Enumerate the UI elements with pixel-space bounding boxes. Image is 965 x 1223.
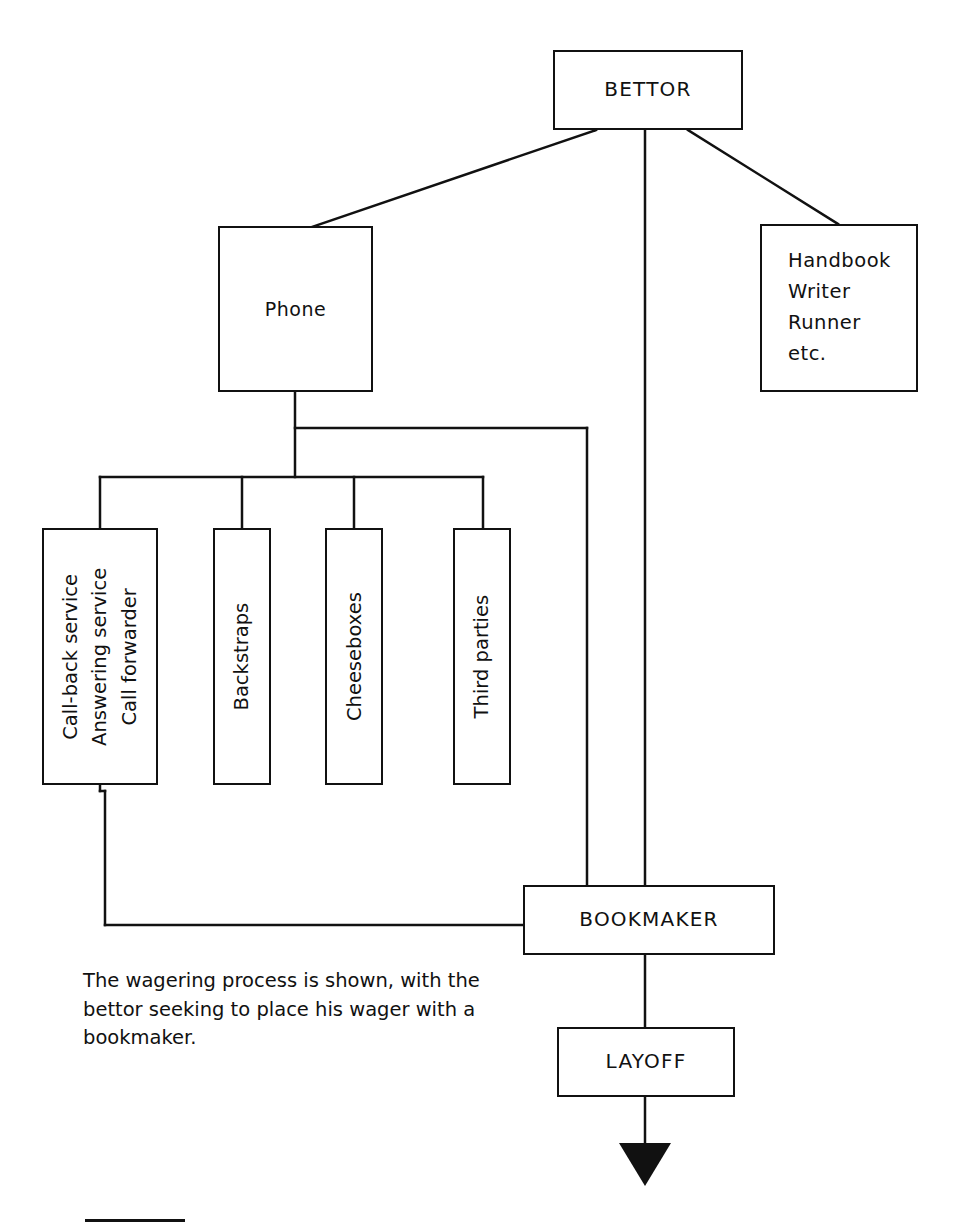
node-third-parties[interactable]: Third parties [453,528,511,785]
edge-bettor-intermediaries [688,130,838,224]
intermediaries-line-4: etc. [788,342,827,365]
node-bettor-label: BETTOR [604,78,691,102]
footer-rule [85,1219,185,1222]
node-intermediaries-label: Handbook Writer Runner etc. [788,246,891,369]
callback-line-3: Call forwarder [115,567,144,745]
intermediaries-line-1: Handbook [788,249,891,272]
node-intermediaries[interactable]: Handbook Writer Runner etc. [760,224,918,392]
node-bettor[interactable]: BETTOR [553,50,743,130]
cheeseboxes-label-wrap: Cheeseboxes [327,530,381,783]
node-backstraps[interactable]: Backstraps [213,528,271,785]
arrow-head-icon [619,1143,671,1186]
node-bookmaker-label: BOOKMAKER [579,908,718,932]
node-cheeseboxes-label: Cheeseboxes [339,592,368,721]
diagram-caption: The wagering process is shown, with the … [83,967,503,1053]
third-parties-label-wrap: Third parties [455,530,509,783]
node-cheeseboxes[interactable]: Cheeseboxes [325,528,383,785]
node-layoff-label: LAYOFF [606,1050,687,1074]
node-callback-services-label: Call-back service Answering service Call… [56,567,144,745]
intermediaries-line-2: Writer [788,280,851,303]
node-callback-services[interactable]: Call-back service Answering service Call… [42,528,158,785]
callback-label-wrap: Call-back service Answering service Call… [44,530,156,783]
callback-line-1: Call-back service [56,567,85,745]
edge-bettor-phone [309,130,596,228]
node-layoff[interactable]: LAYOFF [557,1027,735,1097]
callback-line-2: Answering service [85,567,114,745]
intermediaries-line-3: Runner [788,311,861,334]
node-phone[interactable]: Phone [218,226,373,392]
node-third-parties-label: Third parties [467,595,496,719]
node-backstraps-label: Backstraps [227,603,256,711]
node-phone-label: Phone [265,298,326,320]
diagram-page: BETTOR Phone Handbook Writer Runner etc.… [0,0,965,1223]
backstraps-label-wrap: Backstraps [215,530,269,783]
node-bookmaker[interactable]: BOOKMAKER [523,885,775,955]
